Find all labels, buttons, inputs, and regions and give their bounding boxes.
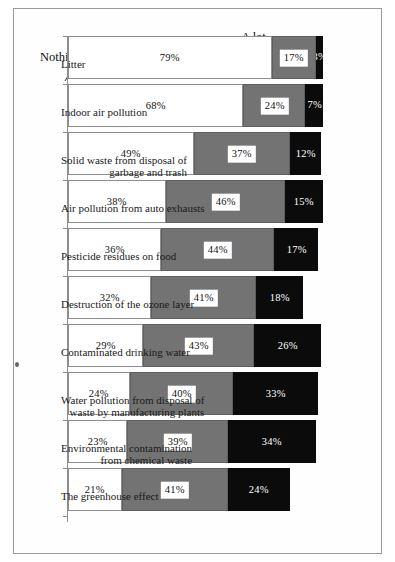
category-label-text: Water pollution from disposal ofwaste by… — [61, 394, 204, 419]
figure-page-frame: A lot A little Nothing 3%17%79%7%24%68%1… — [13, 8, 382, 554]
bar-value-label: 18% — [269, 292, 289, 303]
category-label-text: Pesticide residues on food — [61, 250, 176, 262]
category-label-text: Indoor air pollution — [61, 106, 147, 118]
bar-value-label: 17% — [286, 244, 306, 255]
category-label-9: The greenhouse effect — [43, 468, 67, 511]
bar-segment-nothing: 3% — [315, 36, 323, 79]
bar-value-label: 41% — [162, 482, 188, 497]
rotated-chart-container: A lot A little Nothing 3%17%79%7%24%68%1… — [43, 31, 353, 531]
category-label-8: Environmental contaminationfrom chemical… — [43, 420, 67, 463]
scan-artifact-speck — [15, 362, 19, 367]
bar-segment-alittle: 37% — [194, 132, 289, 175]
category-label-3: Air pollution from auto exhausts — [43, 180, 67, 223]
bar-segment-alittle: 17% — [271, 36, 315, 79]
bar-value-label: 15% — [294, 196, 314, 207]
bar-value-label: 46% — [212, 194, 238, 209]
bar-value-label: 24% — [248, 484, 268, 495]
category-label-text: Air pollution from auto exhausts — [61, 202, 205, 214]
bar-segment-nothing: 15% — [284, 180, 323, 223]
bar-segment-alot: 79% — [68, 36, 272, 79]
category-label-text: Contaminated drinking water — [61, 346, 190, 358]
category-label-text: Solid waste from disposal ofgarbage and … — [61, 154, 187, 179]
category-label-7: Water pollution from disposal ofwaste by… — [43, 372, 67, 415]
bar-value-label: 12% — [295, 148, 315, 159]
category-label-text: The greenhouse effect — [61, 490, 159, 502]
bar-segment-nothing: 24% — [227, 468, 289, 511]
bar-0: 3%17%79% — [68, 36, 326, 79]
category-label-text: Environmental contaminationfrom chemical… — [61, 442, 192, 467]
bar-value-label: 37% — [229, 146, 255, 161]
bar-value-label: 26% — [277, 340, 297, 351]
bar-segment-alittle: 24% — [243, 84, 305, 127]
category-label-group: LitterIndoor air pollutionSolid waste fr… — [43, 36, 67, 522]
category-label-6: Contaminated drinking water — [43, 324, 67, 367]
bar-value-label: 68% — [145, 100, 165, 111]
bar-segment-nothing: 18% — [256, 276, 302, 319]
bar-value-label: 17% — [280, 50, 306, 65]
stacked-bar-chart: A lot A little Nothing 3%17%79%7%24%68%1… — [43, 31, 353, 531]
bar-segment-alittle: 44% — [160, 228, 274, 271]
bar-segment-nothing: 26% — [253, 324, 320, 367]
bar-segment-nothing: 7% — [305, 84, 323, 127]
category-label-4: Pesticide residues on food — [43, 228, 67, 271]
bar-segment-nothing: 33% — [233, 372, 318, 415]
category-label-1: Indoor air pollution — [43, 84, 67, 127]
bar-value-label: 34% — [261, 436, 281, 447]
category-label-text: Litter — [61, 58, 85, 70]
category-label-5: Destruction of the ozone layer — [43, 276, 67, 319]
bar-value-label: 33% — [265, 388, 285, 399]
bar-segment-nothing: 12% — [289, 132, 320, 175]
bar-value-label: 7% — [307, 100, 321, 111]
bar-value-label: 79% — [159, 52, 179, 63]
category-label-0: Litter — [43, 36, 67, 79]
bar-segment-nothing: 17% — [274, 228, 318, 271]
bar-value-label: 44% — [204, 242, 230, 257]
category-label-text: Destruction of the ozone layer — [61, 298, 194, 310]
bar-segment-nothing: 34% — [227, 420, 315, 463]
bar-value-label: 24% — [261, 98, 287, 113]
category-label-2: Solid waste from disposal ofgarbage and … — [43, 132, 67, 175]
